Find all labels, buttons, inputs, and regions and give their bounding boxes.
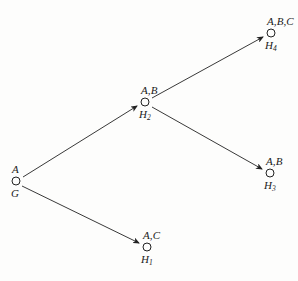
edge-g-to-h1 [22,186,139,243]
node-h3-state-label: A,B [266,156,283,167]
node-h4-state-label: A,B,C [267,16,294,27]
node-h1-name-base: H [141,253,149,265]
root-node-g-name-label: G [11,188,19,199]
diagram-canvas: AGA,BH2A,B,CH4A,BH3A,CH1 [0,0,298,281]
node-h1-circle[interactable] [143,243,151,251]
node-h4-name-subscript: 4 [273,44,277,53]
node-h4-name-label: H4 [265,40,277,51]
root-node-g-circle[interactable] [12,177,20,185]
node-h3-name-base: H [264,179,272,191]
node-h2-circle[interactable] [141,98,149,106]
node-h4-circle[interactable] [267,29,275,37]
node-h3-circle[interactable] [266,169,274,177]
node-h2-name-subscript: 2 [147,113,151,122]
node-h4-name-base: H [265,39,273,51]
node-h1-state-label: A,C [143,230,160,241]
node-h3-name-subscript: 3 [272,184,276,193]
nodes-group [12,29,275,251]
node-h3-name-label: H3 [264,180,276,191]
node-h2-name-base: H [139,108,147,120]
edges-group [22,37,263,243]
edge-h2-to-h4 [152,37,263,98]
edge-g-to-h2 [23,106,137,177]
edge-h2-to-h3 [152,107,262,169]
node-h1-name-subscript: 1 [149,258,153,267]
root-node-g-state-label: A [12,164,19,175]
node-h1-name-label: H1 [141,254,153,265]
node-h2-name-label: H2 [139,109,151,120]
node-h2-state-label: A,B [141,85,158,96]
